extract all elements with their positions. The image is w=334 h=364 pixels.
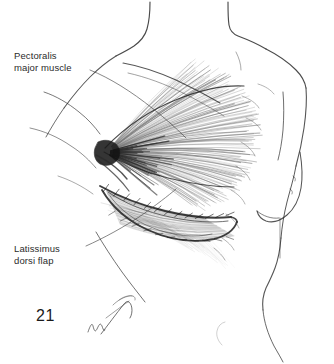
label-latissimus-dorsi: Latissimus dorsi flap <box>14 243 60 266</box>
figure-number: 21 <box>36 307 55 325</box>
figure-container: Pectoralis major muscle Latissimus dorsi… <box>0 0 334 364</box>
label-pectoralis-major: Pectoralis major muscle <box>14 50 72 73</box>
